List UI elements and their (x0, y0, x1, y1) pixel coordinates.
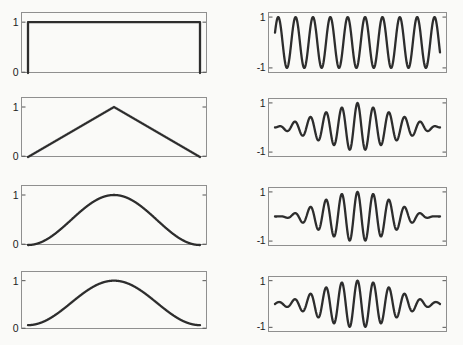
ytick-label-one: 1 (247, 275, 265, 287)
ytick-label-one: 1 (247, 97, 265, 109)
ytick-label-zero: 0 (0, 322, 18, 334)
subplot-sine-rectangular: 1 -1 (268, 12, 447, 73)
ytick-label-zero: 0 (0, 66, 18, 78)
ytick-label-one: 1 (247, 186, 265, 198)
axes-frame (269, 188, 447, 246)
hann-window-curve (28, 195, 200, 245)
sine-triangular-plot (268, 98, 447, 157)
subplot-hann-window: 1 0 (21, 185, 207, 245)
ytick-label-one: 1 (0, 275, 18, 287)
subplot-sine-triangular: 1 -1 (268, 98, 447, 157)
ytick-label-minus-one: -1 (247, 61, 265, 73)
hann-window-plot (21, 185, 207, 245)
sine-rectangular-plot (268, 12, 447, 73)
ytick-label-zero: 0 (0, 150, 18, 162)
rectangular-window-curve (28, 22, 200, 73)
subplot-rectangular-window: 1 0 (21, 12, 207, 73)
ytick-label-one: 1 (0, 189, 18, 201)
hamming-window-plot (21, 271, 207, 329)
subplot-triangular-window: 1 0 (21, 97, 207, 157)
sine-hann-windowed-curve (275, 192, 440, 241)
triangular-window-curve (28, 107, 200, 157)
sine-hann-plot (268, 187, 447, 246)
subplot-hamming-window: 1 0 (21, 271, 207, 329)
axes-frame (269, 277, 447, 332)
window-functions-figure: 1 0 1 -1 1 0 1 -1 1 0 1 -1 1 0 1 -1 (0, 0, 463, 345)
ytick-label-zero: 0 (0, 238, 18, 250)
sine-hamming-plot (268, 276, 447, 332)
ytick-label-one: 1 (247, 11, 265, 23)
ytick-label-one: 1 (0, 16, 18, 28)
ytick-label-minus-one: -1 (247, 320, 265, 332)
ytick-label-one: 1 (0, 101, 18, 113)
axes-frame (269, 99, 447, 157)
subplot-sine-hamming: 1 -1 (268, 276, 447, 332)
sine-hamming-windowed-curve (275, 281, 440, 327)
sine-rectangular-windowed-curve (275, 17, 440, 68)
subplot-sine-hann: 1 -1 (268, 187, 447, 246)
sine-triangular-windowed-curve (275, 103, 440, 150)
triangular-window-plot (21, 97, 207, 157)
rectangular-window-plot (21, 12, 207, 73)
hamming-window-curve (28, 281, 200, 325)
ytick-label-minus-one: -1 (247, 145, 265, 157)
ytick-label-minus-one: -1 (247, 234, 265, 246)
